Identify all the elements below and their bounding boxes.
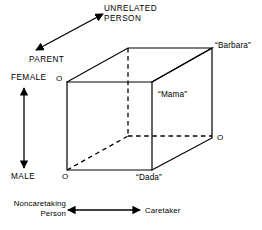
cube-vertex-label-barbara: “Barbara” <box>215 41 251 51</box>
cube-vertex-mark-top-left: O <box>56 74 62 83</box>
axis-label-noncaretaking-person: Noncaretaking Person <box>8 199 66 218</box>
cube-vertex-label-mama: “Mama” <box>158 90 187 100</box>
cube-hidden-edges <box>67 48 212 170</box>
axis-label-male: MALE <box>11 172 35 182</box>
axis-label-female: FEMALE <box>11 73 46 83</box>
cube-solid-edges <box>67 48 212 170</box>
cube-vertex-mark-bottom-left: O <box>62 172 68 181</box>
cube-line-art <box>0 0 262 230</box>
cube-vertex-label-dada: “Dada” <box>136 173 162 183</box>
cube-right-face-edges <box>152 48 212 170</box>
axis-label-caretaker: Caretaker <box>145 206 181 216</box>
axis-arrow-diagonal <box>36 14 103 50</box>
axis-label-parent: PARENT <box>29 55 64 65</box>
cube-top-face-edges <box>67 48 212 82</box>
cube-vertex-mark-right: O <box>217 133 223 142</box>
cube-front-face-edges <box>67 82 152 170</box>
axis-label-unrelated-person: UNRELATED PERSON <box>104 4 157 23</box>
cube-hidden-edge-bottom-left-receding <box>67 136 128 170</box>
semantic-feature-cube-figure: UNRELATED PERSON PARENT FEMALE MALE Nonc… <box>0 0 262 230</box>
